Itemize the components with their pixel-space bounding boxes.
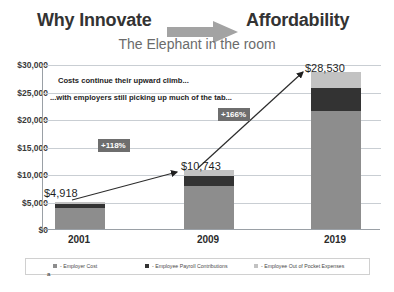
annotation-line-2: ...with employers still picking up much … (50, 93, 232, 102)
legend-swatch-out-of-pocket (254, 264, 258, 268)
header-right-title: Affordability (246, 10, 349, 31)
slide-header: Why Innovate Affordability (0, 8, 394, 38)
bar-2009[interactable] (184, 170, 234, 229)
legend-label-out-of-pocket: - Employee Out of Pocket Expenses (261, 263, 344, 269)
bar-2009-employer-cost (184, 186, 234, 229)
chart-plot-area (42, 65, 380, 230)
slide-canvas: Why Innovate Affordability The Elephant … (0, 0, 394, 292)
value-label-2019: $28,530 (305, 62, 345, 74)
header-left-title: Why Innovate (37, 10, 152, 31)
bar-2009-payroll-contributions (184, 176, 234, 186)
legend-swatch-payroll-contributions (145, 264, 149, 268)
bar-2001-employer-cost (55, 208, 105, 229)
growth-badge-166: +166% (218, 108, 250, 121)
legend-item-payroll-contributions[interactable]: - Employee Payroll Contributions (145, 263, 228, 269)
x-label-2009: 2009 (183, 234, 233, 245)
chart-legend: - Employer Cost - Employee Payroll Contr… (25, 258, 370, 275)
x-label-2001: 2001 (54, 234, 104, 245)
legend-label-payroll-contributions: - Employee Payroll Contributions (152, 263, 228, 269)
bar-2001-payroll-contributions (55, 204, 105, 208)
value-label-2001: $4,918 (44, 187, 78, 199)
footer-mark: a (47, 271, 50, 277)
x-label-2019: 2019 (310, 234, 360, 245)
bar-2019-employer-cost (311, 111, 361, 229)
annotation-line-1: Costs continue their upward climb... (58, 76, 189, 85)
legend-item-employer-cost[interactable]: - Employer Cost (53, 263, 97, 269)
bar-2019-payroll-contributions (311, 88, 361, 111)
value-label-2009: $10,743 (181, 160, 221, 172)
legend-label-employer-cost: - Employer Cost (60, 263, 97, 269)
bar-2019[interactable] (311, 72, 361, 229)
bar-2001[interactable] (55, 202, 105, 229)
bar-2001-out-of-pocket (55, 202, 105, 204)
slide-subtitle: The Elephant in the room (0, 36, 394, 52)
legend-item-out-of-pocket[interactable]: - Employee Out of Pocket Expenses (254, 263, 344, 269)
growth-badge-118: +118% (98, 139, 130, 152)
legend-swatch-employer-cost (53, 264, 57, 268)
bar-2019-out-of-pocket (311, 72, 361, 88)
